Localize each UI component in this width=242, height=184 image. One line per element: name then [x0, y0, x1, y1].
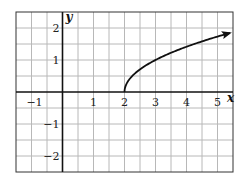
x-tick-label: 5	[214, 96, 221, 109]
y-axis-label: y	[65, 10, 74, 24]
x-tick-label: 2	[121, 96, 128, 109]
x-tick-label: 3	[152, 96, 159, 109]
x-tick-label: 1	[90, 96, 97, 109]
y-tick-label: 2	[53, 22, 60, 35]
y-tick-label: −2	[43, 150, 59, 163]
x-tick-label: −1	[26, 96, 42, 109]
y-tick-label: 1	[53, 54, 60, 67]
y-tick-label: −1	[43, 118, 59, 131]
x-axis-label: x	[226, 91, 235, 105]
x-tick-label: 4	[183, 96, 190, 109]
chart: −11234521−1−2 x y	[0, 0, 242, 184]
